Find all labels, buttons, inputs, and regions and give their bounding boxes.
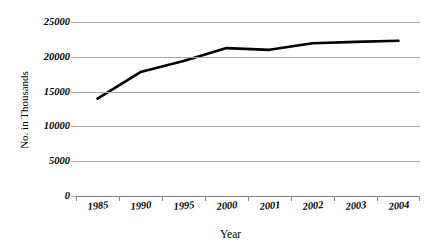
y-axis-tick: [71, 22, 76, 23]
x-axis-tick-label: 1990: [129, 199, 151, 212]
gridline: [76, 161, 420, 162]
gridline: [76, 22, 420, 23]
x-axis-tick-labels: 19851990199520002001200220032004: [76, 200, 420, 220]
y-axis-tick-label: 25000: [10, 17, 70, 28]
x-axis-tick-label: 2001: [258, 199, 280, 212]
plot-area: [76, 22, 420, 196]
x-axis-tick-label: 2002: [301, 199, 323, 212]
x-axis-tick-label: 2000: [215, 199, 237, 212]
line-chart: 0500010000150002000025000 No. in Thousan…: [0, 0, 437, 252]
x-axis-tick-label: 1985: [86, 199, 108, 212]
y-axis-tick: [71, 126, 76, 127]
gridline: [76, 57, 420, 58]
x-axis-tick-label: 2003: [344, 199, 366, 212]
y-axis-tick: [71, 92, 76, 93]
x-axis-tick-label: 1995: [172, 199, 194, 212]
gridline: [76, 126, 420, 127]
y-axis-title: No. in Thousands: [18, 50, 30, 170]
x-axis-title: Year: [0, 228, 437, 240]
series-line: [76, 22, 420, 196]
gridline: [76, 92, 420, 93]
y-axis-tick: [71, 57, 76, 58]
y-axis-tick: [71, 161, 76, 162]
y-axis-tick-label: 0: [10, 191, 70, 202]
x-axis-tick-label: 2004: [387, 199, 409, 212]
